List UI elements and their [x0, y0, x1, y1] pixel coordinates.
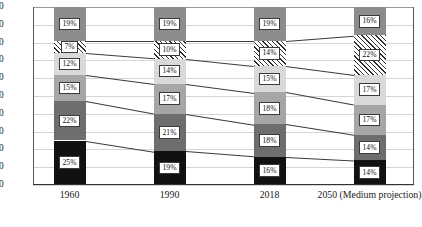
- y-tick-label-80: 80: [0, 38, 4, 47]
- y-tick-label-60: 60: [0, 73, 4, 82]
- y-tick-label-50: 50: [0, 91, 4, 100]
- y-tick-label-0: 0: [0, 180, 4, 189]
- stacked-bar-chart: 1009080706050403020100 25%22%15%12%7%19%…: [0, 0, 422, 227]
- y-tick-label-70: 70: [0, 55, 4, 64]
- gridline-0: [33, 185, 414, 186]
- y-tick-label-100: 100: [0, 2, 4, 11]
- y-tick-label-10: 10: [0, 162, 4, 171]
- y-tick-label-20: 20: [0, 144, 4, 153]
- plot-frame: [33, 7, 414, 185]
- plot-area: 25%22%15%12%7%19%19%21%17%14%10%19%16%18…: [33, 7, 414, 185]
- y-tick-label-30: 30: [0, 127, 4, 136]
- x-tick-label-2050: 2050 (Medium projection): [280, 190, 422, 200]
- y-tick-label-40: 40: [0, 109, 4, 118]
- y-tick-label-90: 90: [0, 20, 4, 29]
